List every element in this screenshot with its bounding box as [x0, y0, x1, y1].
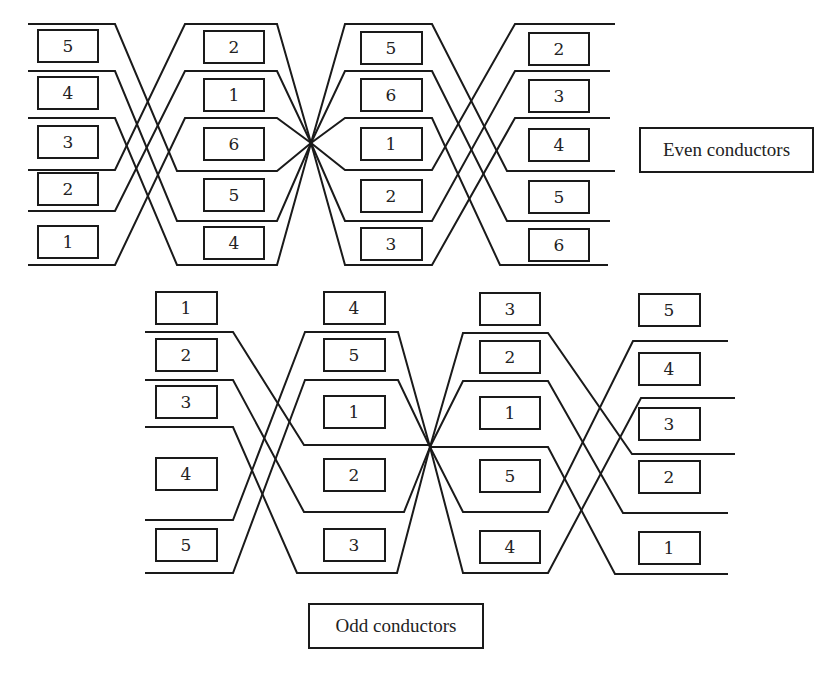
- even-box-label: 4: [554, 135, 565, 155]
- even-box-label: 1: [63, 232, 74, 252]
- odd-box-label: 3: [505, 299, 516, 319]
- odd-box-label: 1: [181, 298, 192, 318]
- odd-boxes: 1 2 3 4 5 4 5 1 2 3 3 2 1 5 4 5 4 3 2 1: [156, 292, 700, 564]
- odd-box-label: 5: [349, 345, 360, 365]
- even-col-1: 5 4 3 2 1: [38, 30, 98, 258]
- odd-conductors-legend: Odd conductors: [308, 603, 484, 649]
- even-col-3: 5 6 1 2 3: [361, 32, 422, 260]
- even-box-label: 2: [229, 37, 240, 57]
- even-box-label: 6: [229, 134, 240, 154]
- even-box-label: 5: [386, 38, 397, 58]
- even-conductors-legend: Even conductors: [639, 127, 814, 173]
- transposition-diagram: 5 4 3 2 1 2 1 6 5 4 5 6 1 2 3 2 3 4 5 6: [0, 0, 835, 680]
- even-box-label: 3: [63, 132, 74, 152]
- even-box-label: 4: [63, 83, 74, 103]
- even-box-label: 5: [63, 36, 74, 56]
- odd-box-label: 4: [505, 537, 516, 557]
- even-box-label: 1: [229, 85, 240, 105]
- even-box-label: 1: [386, 134, 397, 154]
- odd-box-label: 4: [181, 464, 192, 484]
- even-box-label: 2: [63, 179, 74, 199]
- even-col-2: 2 1 6 5 4: [204, 31, 264, 259]
- even-box-label: 4: [229, 233, 240, 253]
- odd-box-label: 1: [664, 538, 675, 558]
- even-box-label: 3: [386, 234, 397, 254]
- odd-box-label: 3: [349, 535, 360, 555]
- odd-box-label: 3: [181, 392, 192, 412]
- odd-box-label: 2: [181, 345, 192, 365]
- even-box-label: 2: [386, 186, 397, 206]
- odd-box-label: 2: [505, 347, 516, 367]
- even-box-label: 2: [554, 39, 565, 59]
- even-box-label: 3: [554, 86, 565, 106]
- odd-box-label: 5: [181, 535, 192, 555]
- odd-box-label: 4: [349, 298, 360, 318]
- odd-box-label: 5: [664, 300, 675, 320]
- even-box-label: 5: [554, 187, 565, 207]
- odd-box-label: 1: [505, 403, 516, 423]
- odd-box-label: 2: [349, 465, 360, 485]
- even-conductor-paths: [28, 24, 615, 265]
- odd-box-label: 5: [505, 466, 516, 486]
- even-box-label: 6: [554, 235, 565, 255]
- odd-box-label: 2: [664, 467, 675, 487]
- odd-box-label: 1: [349, 402, 360, 422]
- odd-col-4: 5 4 3 2 1: [639, 294, 700, 564]
- even-col-4: 2 3 4 5 6: [529, 33, 589, 261]
- odd-box-label: 3: [664, 414, 675, 434]
- even-box-label: 6: [386, 85, 397, 105]
- even-box-label: 5: [229, 185, 240, 205]
- odd-box-label: 4: [664, 359, 675, 379]
